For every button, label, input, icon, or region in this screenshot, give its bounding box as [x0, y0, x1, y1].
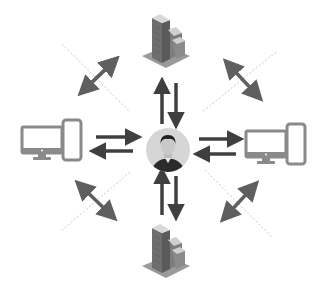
desktop-and-tablet-icon	[20, 118, 84, 162]
device-node-right	[244, 122, 308, 166]
desktop-and-tablet-icon	[244, 122, 308, 166]
user-avatar	[145, 127, 191, 173]
user-avatar-icon	[145, 127, 191, 173]
device-node-left	[20, 118, 84, 162]
building-node-top	[140, 8, 192, 70]
office-building-icon	[140, 8, 192, 70]
building-node-bottom	[140, 218, 192, 280]
office-building-icon	[140, 218, 192, 280]
